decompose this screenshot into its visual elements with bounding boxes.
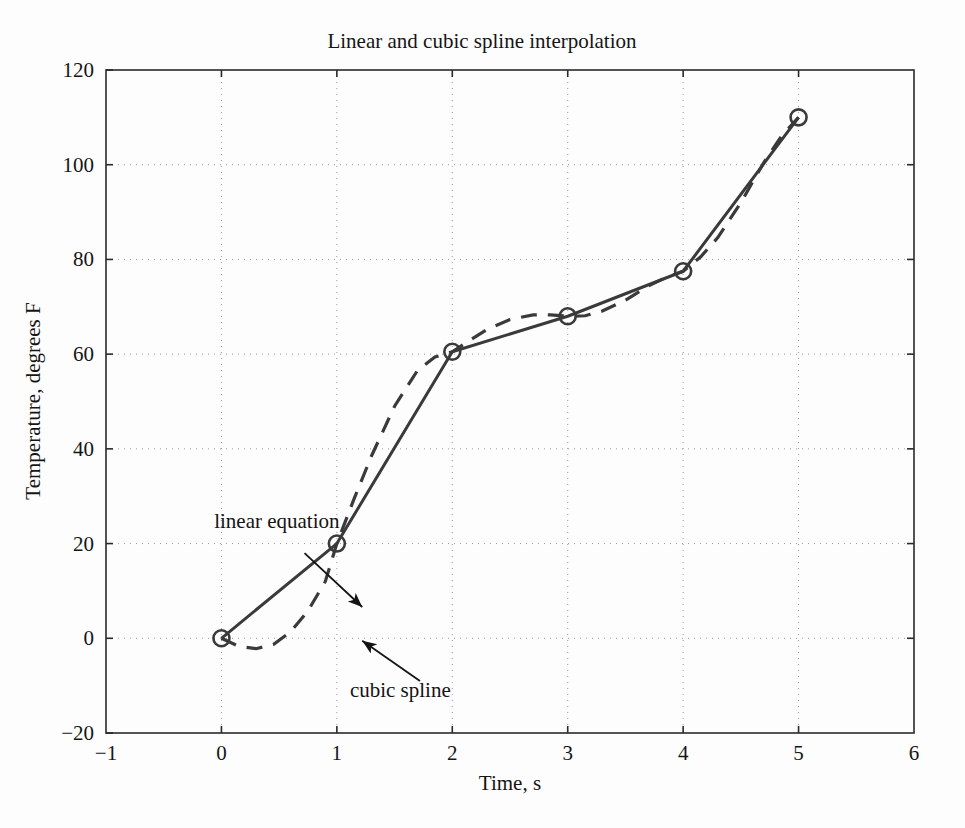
annotation-arrow-cubic-spline [362, 641, 420, 681]
y-tick-label: −20 [61, 721, 94, 745]
y-tick-label: 0 [84, 626, 95, 650]
x-tick-label: 5 [793, 741, 804, 765]
x-tick-label: 0 [216, 741, 227, 765]
annotation-label-cubic-spline: cubic spline [350, 678, 451, 702]
y-tick-label: 20 [73, 532, 94, 556]
interpolation-chart: −10123456 −20020406080100120 linear equa… [0, 0, 965, 828]
x-tick-label: 2 [447, 741, 458, 765]
x-tick-label: 3 [562, 741, 573, 765]
x-tick-label: 6 [909, 741, 920, 765]
linear-equation-line [221, 117, 798, 638]
data-point-markers [213, 109, 806, 646]
x-tick-label: −1 [95, 741, 117, 765]
y-tick-label: 40 [73, 437, 94, 461]
linear-equation-series [221, 117, 798, 638]
annotation-label-linear-equation: linear equation [214, 509, 340, 533]
figure-container: −10123456 −20020406080100120 linear equa… [0, 0, 965, 828]
y-tick-labels: −20020406080100120 [61, 58, 94, 745]
x-axis-label: Time, s [479, 771, 541, 795]
x-tick-label: 1 [332, 741, 343, 765]
y-tick-label: 80 [73, 247, 94, 271]
x-tick-label: 4 [678, 741, 689, 765]
y-axis-label: Temperature, degrees F [21, 302, 45, 499]
x-tick-labels: −10123456 [95, 741, 919, 765]
data-point-marker [791, 109, 807, 125]
chart-title: Linear and cubic spline interpolation [327, 29, 637, 53]
y-tick-label: 100 [63, 153, 95, 177]
y-tick-label: 60 [73, 342, 94, 366]
y-tick-label: 120 [63, 58, 95, 82]
